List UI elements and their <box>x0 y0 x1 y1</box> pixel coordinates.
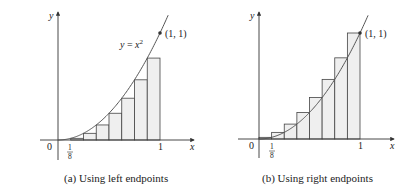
point-marker <box>158 31 162 35</box>
point-label: (1, 1) <box>165 28 187 40</box>
riemann-sum-figure: y 0 1 x 1 8 (1, 1) y = x2 (a) Using left… <box>0 0 418 196</box>
riemann-rectangle <box>310 98 323 139</box>
point-marker <box>358 31 362 35</box>
x-one-label: 1 <box>158 141 163 152</box>
frac-numerator: 1 <box>68 143 72 152</box>
origin-label: 0 <box>47 141 52 152</box>
x-axis-label: x <box>389 140 395 151</box>
frac-denominator: 8 <box>270 151 274 160</box>
riemann-rectangle <box>122 98 135 140</box>
riemann-rectangle <box>347 33 360 139</box>
origin-label: 0 <box>249 140 254 151</box>
riemann-rectangle <box>335 58 348 139</box>
point-label: (1, 1) <box>365 28 387 40</box>
caption-right: (b) Using right endpoints <box>262 172 373 185</box>
riemann-rectangle <box>297 113 310 140</box>
x-axis-label: x <box>189 141 195 152</box>
riemann-rectangle <box>147 58 160 140</box>
frac-numerator: 1 <box>270 142 274 151</box>
riemann-rectangle <box>109 113 122 140</box>
x-one-label: 1 <box>358 140 363 151</box>
y-axis-label: y <box>249 10 255 21</box>
riemann-rectangle <box>96 125 109 140</box>
riemann-rectangle <box>84 133 97 140</box>
y-axis-label: y <box>48 10 54 21</box>
curve-label: y = x2 <box>119 38 144 50</box>
riemann-rectangle <box>135 80 148 140</box>
caption-left: (a) Using left endpoints <box>64 172 168 185</box>
frac-denominator: 8 <box>68 152 72 161</box>
